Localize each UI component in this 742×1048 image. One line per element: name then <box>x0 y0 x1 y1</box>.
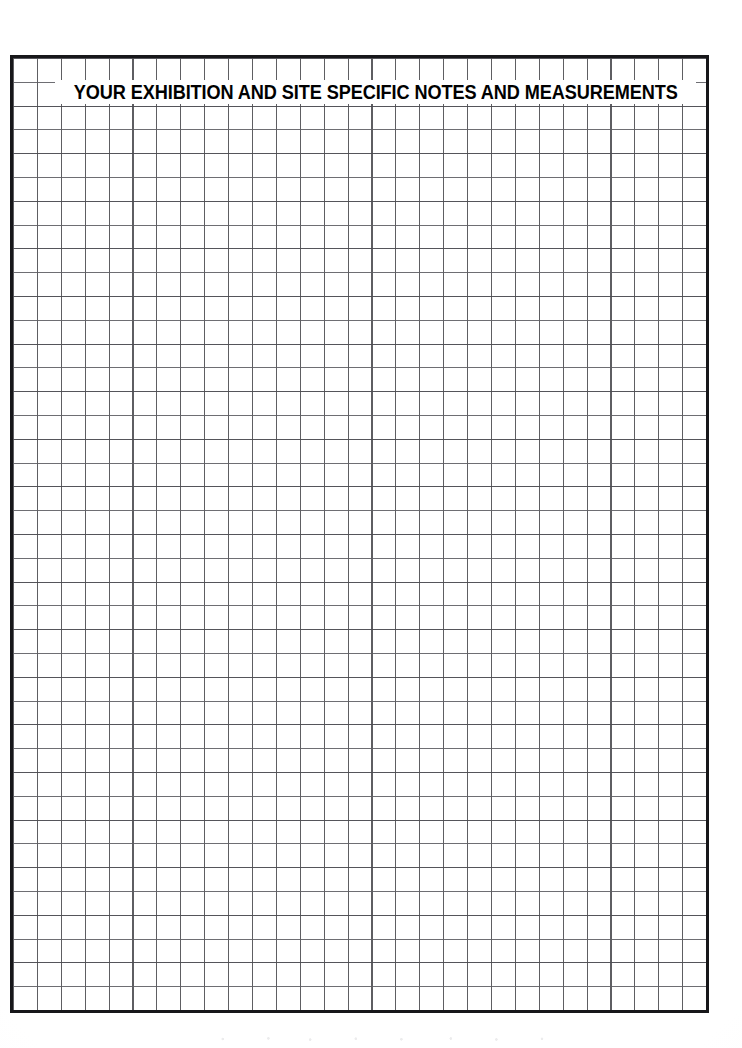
worksheet-page: YOUR EXHIBITION AND SITE SPECIFIC NOTES … <box>0 0 742 1048</box>
grid-sheet: YOUR EXHIBITION AND SITE SPECIFIC NOTES … <box>10 55 709 1013</box>
scan-artifact-speckle <box>200 1036 580 1042</box>
title-band: YOUR EXHIBITION AND SITE SPECIFIC NOTES … <box>55 80 696 104</box>
page-title: YOUR EXHIBITION AND SITE SPECIFIC NOTES … <box>73 82 677 102</box>
grid-lines <box>13 58 706 1010</box>
